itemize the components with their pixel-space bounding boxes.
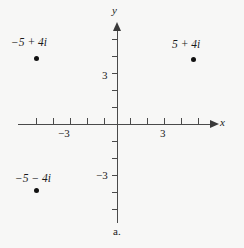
x-axis-tick xyxy=(130,118,131,124)
y-axis-tick xyxy=(112,107,118,108)
y-axis-tick xyxy=(112,209,118,210)
y-axis-tick xyxy=(112,141,118,142)
y-tick-label-3: 3 xyxy=(102,70,108,81)
y-axis-label: y xyxy=(112,5,117,16)
y-axis-tick xyxy=(112,56,118,57)
x-axis-tick xyxy=(104,118,105,124)
x-axis-tick xyxy=(147,118,148,124)
data-point-label-minus5-minus4i: −5 − 4i xyxy=(15,172,51,184)
y-axis-line xyxy=(117,28,118,223)
x-axis-label: x xyxy=(220,117,225,128)
y-axis-tick xyxy=(112,192,118,193)
x-axis-tick xyxy=(53,118,54,124)
x-tick-label-3: 3 xyxy=(160,128,166,139)
y-tick-label-neg3: −3 xyxy=(96,170,108,181)
y-axis-arrowhead xyxy=(113,22,121,31)
y-axis-tick xyxy=(112,73,118,74)
x-axis-arrowhead xyxy=(210,120,219,128)
x-axis-tick xyxy=(70,118,71,124)
y-axis-tick xyxy=(112,175,118,176)
data-point-minus5-plus4i xyxy=(34,56,39,61)
figure-caption: a. xyxy=(113,226,121,237)
x-tick-label-neg3: −3 xyxy=(58,128,70,139)
x-axis-tick xyxy=(164,118,165,124)
y-axis-tick xyxy=(112,158,118,159)
x-axis-tick xyxy=(36,118,37,124)
x-axis-tick xyxy=(198,118,199,124)
complex-plane-figure: x y 3 −3 3 −3 −5 + 4i 5 + 4i −5 − 4i a. xyxy=(0,0,244,248)
data-point-5-plus4i xyxy=(191,57,196,62)
data-point-label-minus5-plus4i: −5 + 4i xyxy=(11,36,47,48)
y-axis-tick xyxy=(112,90,118,91)
x-axis-tick xyxy=(87,118,88,124)
data-point-minus5-minus4i xyxy=(34,188,39,193)
y-axis-tick xyxy=(112,39,118,40)
x-axis-tick xyxy=(181,118,182,124)
data-point-label-5-plus4i: 5 + 4i xyxy=(172,38,200,50)
